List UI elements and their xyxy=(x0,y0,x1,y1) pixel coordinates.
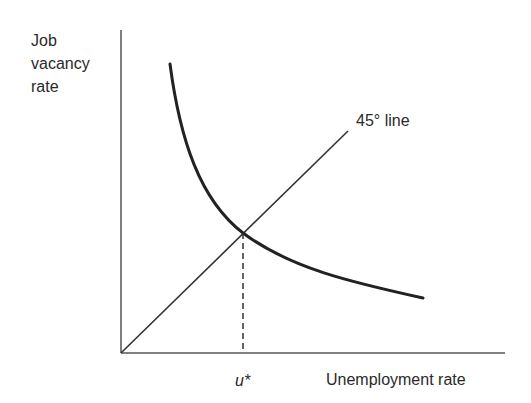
beveridge-diagram xyxy=(0,0,531,403)
forty-five-degree-line xyxy=(121,131,348,353)
u-star-label: u* xyxy=(235,372,250,390)
forty-five-line-label: 45° line xyxy=(356,112,410,130)
x-axis-label: Unemployment rate xyxy=(326,371,466,389)
